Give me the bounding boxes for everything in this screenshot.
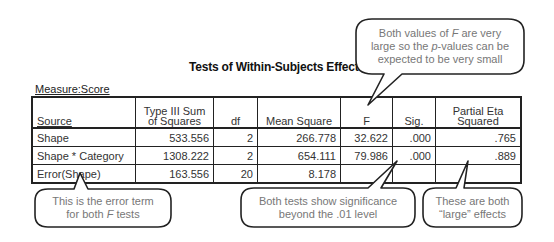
callout-significance-text: Both tests show significance beyond the … — [242, 195, 414, 221]
callout-f-values-text: Both values of F are very large so the p… — [358, 27, 522, 66]
callout-error-term-text: This is the error term for both F tests — [36, 195, 170, 221]
callout-effects-text: These are both “large” effects — [424, 195, 521, 221]
